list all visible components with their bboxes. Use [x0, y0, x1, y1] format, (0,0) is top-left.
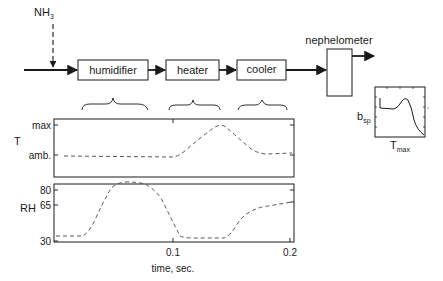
flow-schematic: NH3 humidifier heater cooler nephelomete…: [24, 6, 374, 96]
heater-label: heater: [177, 64, 209, 76]
humidity-plot-frame: [54, 184, 294, 242]
t-tick-max: max: [32, 120, 51, 131]
humidity-curve: [56, 182, 292, 238]
inset-y-label: bsp: [357, 110, 371, 125]
temperature-plot-frame: [54, 119, 294, 177]
rh-tick-80: 80: [40, 185, 52, 196]
rh-tick-30: 30: [40, 236, 52, 247]
rh-tick-65: 65: [40, 200, 52, 211]
nh3-label: NH3: [34, 6, 54, 20]
t-axis-label: T: [14, 135, 21, 147]
t-tick-amb: amb.: [29, 150, 51, 161]
inset-x-label: Tmax: [390, 139, 410, 153]
x-tick-0-2: 0.2: [283, 247, 297, 258]
inset-chart: bsp Tmax: [357, 87, 429, 153]
x-axis-label: time, sec.: [152, 263, 195, 274]
inset-frame: [375, 87, 425, 137]
humidity-panel: 80 65 30 RH 0.1 0.2 time, sec.: [20, 182, 297, 274]
nephelometer-label: nephelometer: [305, 34, 373, 46]
heater-brace: [169, 100, 220, 110]
cooler-brace: [238, 100, 287, 110]
humidifier-brace: [82, 98, 148, 110]
nephelometer-box: [327, 49, 352, 96]
humidifier-label: humidifier: [89, 64, 137, 76]
temperature-panel: max amb. T: [14, 119, 294, 177]
x-tick-0-1: 0.1: [166, 247, 180, 258]
temperature-curve: [64, 125, 292, 157]
cooler-label: cooler: [247, 63, 277, 75]
rh-axis-label: RH: [20, 202, 36, 214]
stage-braces: [82, 98, 287, 110]
